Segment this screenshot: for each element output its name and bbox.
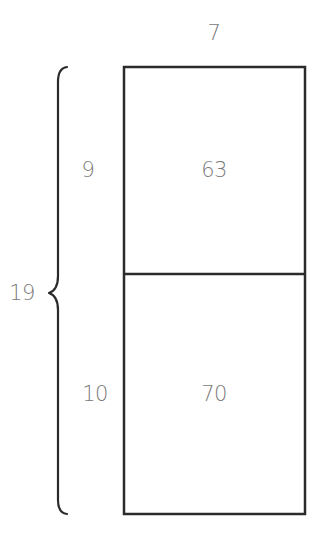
top-part-height-label: 9 [82,160,95,181]
top-part-area-label: 63 [201,160,227,181]
total-height-label: 19 [9,283,35,304]
area-model-graphic [0,0,324,544]
area-model-diagram: 7 19 9 63 10 70 [0,0,324,544]
width-label: 7 [208,23,221,44]
curly-brace-icon [49,67,67,514]
bottom-part-area-label: 70 [201,384,227,405]
bottom-part-height-label: 10 [82,384,108,405]
outer-rectangle [124,67,305,514]
